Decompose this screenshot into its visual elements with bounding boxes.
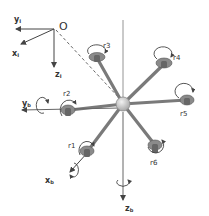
rotor-label-r1: r1 [68,142,75,150]
rotor-label-r6: r6 [150,159,158,167]
inertial-x-axis [21,29,54,44]
inertial-z-label: zI [55,70,62,79]
rotor-r1: r1 [68,141,94,157]
rotor-label-r4: r4 [173,54,181,62]
arm-r3 [97,58,123,104]
central-hub [116,97,130,111]
rotor-r6: r6 [148,140,164,167]
inertial-x-label: xI [12,49,19,58]
roll-rotation-arrow [36,97,48,113]
body-z-label: zb [125,204,134,213]
rotor-r4: r4 [154,47,181,68]
arm-r4 [123,65,163,104]
rotor-label-r5: r5 [180,110,187,118]
rotor-r2: r2 [60,90,76,116]
body-y-label: yb [22,99,31,108]
origin-label: O [59,20,68,33]
arm-r1 [87,104,123,152]
rotor-r3: r3 [88,42,111,62]
arm-r5 [123,100,186,104]
rotor-label-r3: r3 [103,42,110,50]
inertial-y-label: yI [14,15,21,24]
rotor-label-r2: r2 [63,90,70,98]
body-x-label: xb [45,176,54,185]
hexacopter-diagram: O yI xI zI r3 r4 r5 [0,0,209,216]
arm-r6 [123,104,155,145]
